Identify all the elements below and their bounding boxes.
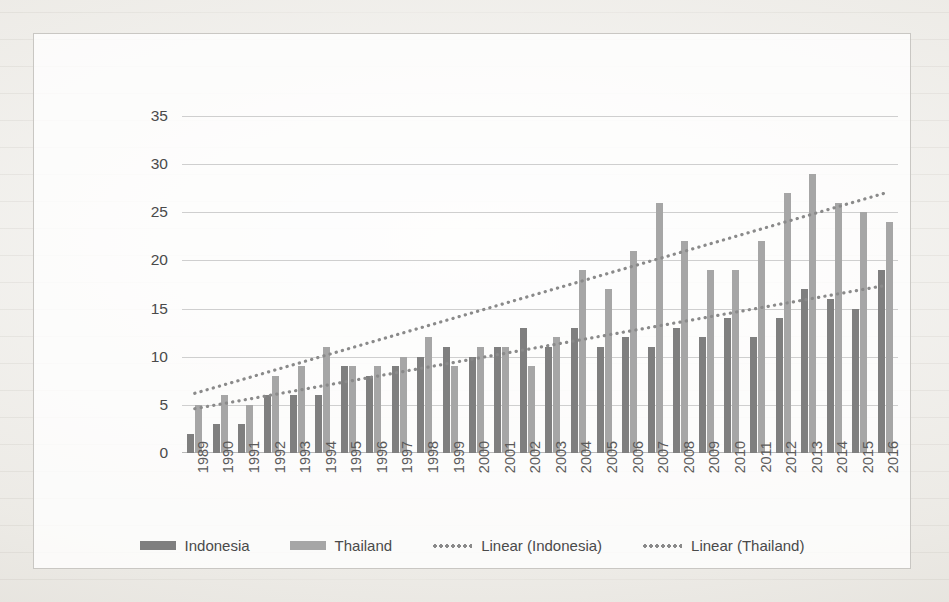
bar-thailand-2009 xyxy=(707,270,714,453)
bar-group-2013 xyxy=(796,116,822,453)
legend-label: Linear (Indonesia) xyxy=(481,537,602,554)
bar-thailand-2007 xyxy=(656,203,663,453)
x-tick-cell-1999: 1999 xyxy=(438,455,464,541)
bar-indonesia-2009 xyxy=(699,337,706,453)
bar-group-2001 xyxy=(489,116,515,453)
bar-indonesia-1994 xyxy=(315,395,322,453)
bar-thailand-2013 xyxy=(809,174,816,453)
bar-group-2011 xyxy=(745,116,771,453)
bar-group-2012 xyxy=(770,116,796,453)
bar-series-group xyxy=(182,116,898,453)
legend-item-thailand[interactable]: Thailand xyxy=(290,537,393,554)
bar-group-1990 xyxy=(208,116,234,453)
bar-indonesia-2012 xyxy=(776,318,783,453)
legend-item-indonesia[interactable]: Indonesia xyxy=(140,537,250,554)
legend-item-linear-thailand[interactable]: Linear (Thailand) xyxy=(642,537,804,554)
x-tick-cell-2004: 2004 xyxy=(566,455,592,541)
bar-indonesia-2014 xyxy=(827,299,834,453)
bar-indonesia-2013 xyxy=(801,289,808,453)
y-tick-15: 15 xyxy=(151,300,168,318)
bar-group-2010 xyxy=(719,116,745,453)
bar-group-2007 xyxy=(642,116,668,453)
bar-thailand-2000 xyxy=(477,347,484,453)
bar-group-2005 xyxy=(591,116,617,453)
x-tick-cell-2005: 2005 xyxy=(591,455,617,541)
legend-dotted-line-icon xyxy=(642,544,682,548)
bar-group-2006 xyxy=(617,116,643,453)
x-tick-cell-1996: 1996 xyxy=(361,455,387,541)
x-tick-cell-2016: 2016 xyxy=(873,455,899,541)
bar-group-1992 xyxy=(259,116,285,453)
bar-indonesia-1992 xyxy=(264,395,271,453)
bar-indonesia-2007 xyxy=(648,347,655,453)
y-axis-tick-labels: 05101520253035 xyxy=(130,34,174,568)
x-tick-cell-2011: 2011 xyxy=(745,455,771,541)
bar-group-1989 xyxy=(182,116,208,453)
y-tick-10: 10 xyxy=(151,348,168,366)
bar-thailand-2004 xyxy=(579,270,586,453)
bar-thailand-2010 xyxy=(732,270,739,453)
chart-legend: IndonesiaThailandLinear (Indonesia)Linea… xyxy=(34,537,910,554)
x-tick-cell-1990: 1990 xyxy=(208,455,234,541)
bar-group-1996 xyxy=(361,116,387,453)
x-tick-cell-2015: 2015 xyxy=(847,455,873,541)
x-tick-cell-1997: 1997 xyxy=(387,455,413,541)
legend-label: Indonesia xyxy=(185,537,250,554)
bar-thailand-2014 xyxy=(835,203,842,453)
x-tick-cell-2014: 2014 xyxy=(821,455,847,541)
bar-indonesia-2000 xyxy=(469,357,476,453)
bar-indonesia-1993 xyxy=(290,395,297,453)
legend-dotted-line-icon xyxy=(432,544,472,548)
x-tick-cell-1992: 1992 xyxy=(259,455,285,541)
bar-indonesia-1998 xyxy=(417,357,424,453)
bar-indonesia-2006 xyxy=(622,337,629,453)
bar-thailand-2011 xyxy=(758,241,765,453)
bar-indonesia-1991 xyxy=(238,424,245,453)
bar-thailand-2015 xyxy=(860,212,867,453)
bar-thailand-2016 xyxy=(886,222,893,453)
x-tick-cell-1993: 1993 xyxy=(284,455,310,541)
bar-indonesia-1995 xyxy=(341,366,348,453)
x-tick-cell-2003: 2003 xyxy=(540,455,566,541)
bar-thailand-2012 xyxy=(784,193,791,453)
x-tick-cell-2012: 2012 xyxy=(770,455,796,541)
x-tick-cell-2007: 2007 xyxy=(642,455,668,541)
y-tick-35: 35 xyxy=(151,107,168,125)
bar-group-2002 xyxy=(515,116,541,453)
x-tick-cell-2000: 2000 xyxy=(463,455,489,541)
bar-indonesia-2015 xyxy=(852,309,859,453)
bar-group-1997 xyxy=(387,116,413,453)
x-tick-cell-2010: 2010 xyxy=(719,455,745,541)
plot-area xyxy=(182,116,898,453)
legend-swatch-icon xyxy=(290,541,326,550)
bar-group-2000 xyxy=(463,116,489,453)
bar-indonesia-2010 xyxy=(724,318,731,453)
bar-thailand-1994 xyxy=(323,347,330,453)
bar-indonesia-2003 xyxy=(545,347,552,453)
bar-thailand-2001 xyxy=(502,347,509,453)
x-axis-category-labels: 1989199019911992199319941995199619971998… xyxy=(182,455,898,541)
bar-indonesia-2004 xyxy=(571,328,578,453)
y-tick-30: 30 xyxy=(151,155,168,173)
chart-container: Number of items whose RCAI>1 (out of 57 … xyxy=(33,33,911,569)
y-tick-5: 5 xyxy=(159,396,168,414)
x-tick-cell-2001: 2001 xyxy=(489,455,515,541)
x-tick-cell-1991: 1991 xyxy=(233,455,259,541)
bar-group-1991 xyxy=(233,116,259,453)
bar-indonesia-2016 xyxy=(878,270,885,453)
bar-thailand-2003 xyxy=(553,337,560,453)
legend-item-linear-indonesia[interactable]: Linear (Indonesia) xyxy=(432,537,602,554)
x-tick-cell-1998: 1998 xyxy=(412,455,438,541)
bar-indonesia-2005 xyxy=(597,347,604,453)
y-tick-0: 0 xyxy=(159,444,168,462)
bar-group-1994 xyxy=(310,116,336,453)
bar-group-2015 xyxy=(847,116,873,453)
bar-thailand-2006 xyxy=(630,251,637,453)
y-tick-20: 20 xyxy=(151,251,168,269)
x-tick-cell-1989: 1989 xyxy=(182,455,208,541)
bar-indonesia-2001 xyxy=(494,347,501,453)
x-tick-cell-1995: 1995 xyxy=(335,455,361,541)
bar-indonesia-1997 xyxy=(392,366,399,453)
y-tick-25: 25 xyxy=(151,203,168,221)
x-tick-cell-2009: 2009 xyxy=(694,455,720,541)
